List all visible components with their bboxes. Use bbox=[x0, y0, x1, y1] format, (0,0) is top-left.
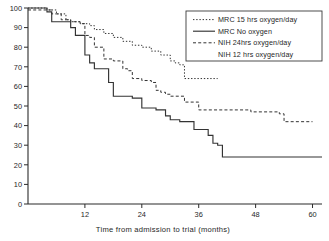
legend-label-3: NIH 12 hrs oxygen/day bbox=[218, 50, 294, 59]
legend-label-1: MRC No oxygen bbox=[218, 27, 272, 36]
x-tick-label: 48 bbox=[251, 210, 259, 219]
y-tick-label: 90 bbox=[14, 23, 22, 32]
y-tick-label: 100 bbox=[10, 4, 22, 13]
y-tick-label: 50 bbox=[14, 102, 22, 111]
y-tick-label: 40 bbox=[14, 121, 22, 130]
y-tick-label: 80 bbox=[14, 43, 22, 52]
y-tick-label: 60 bbox=[14, 82, 22, 91]
survival-chart: 0102030405060708090100 1224364860 Time f… bbox=[0, 0, 329, 241]
y-tick-label: 70 bbox=[14, 63, 22, 72]
chart-legend: MRC 15 hrs oxygen/dayMRC No oxygenNIH 24… bbox=[186, 11, 322, 61]
legend-label-2: NIH 24hrs oxygen/day bbox=[218, 38, 291, 47]
y-tick-label: 0 bbox=[18, 200, 22, 209]
y-tick-label: 20 bbox=[14, 161, 22, 170]
y-tick-label: 10 bbox=[14, 180, 22, 189]
x-tick-label: 12 bbox=[81, 210, 89, 219]
x-tick-label: 36 bbox=[195, 210, 203, 219]
x-tick-label: 60 bbox=[308, 210, 316, 219]
legend-label-0: MRC 15 hrs oxygen/day bbox=[218, 15, 298, 24]
x-axis-title: Time from admission to trial (months) bbox=[96, 225, 231, 234]
x-tick-label: 24 bbox=[138, 210, 146, 219]
chart-canvas: 0102030405060708090100 1224364860 Time f… bbox=[0, 0, 329, 241]
y-tick-label: 30 bbox=[14, 141, 22, 150]
